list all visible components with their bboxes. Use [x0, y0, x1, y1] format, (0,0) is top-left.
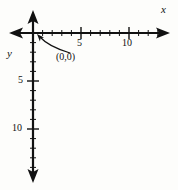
x-axis-label: x	[161, 4, 166, 15]
y-tick-label-5: 5	[18, 75, 23, 85]
x-tick-label-5: 5	[77, 38, 82, 48]
coordinate-axes-figure: x y 5 10 5 10 (0,0)	[0, 0, 178, 190]
origin-point-label: (0,0)	[56, 52, 75, 62]
y-axis-group	[27, 10, 39, 183]
y-tick-label-10: 10	[12, 123, 22, 133]
y-axis-label: y	[7, 48, 12, 59]
x-tick-label-10: 10	[122, 38, 132, 48]
axes-svg	[0, 0, 178, 190]
